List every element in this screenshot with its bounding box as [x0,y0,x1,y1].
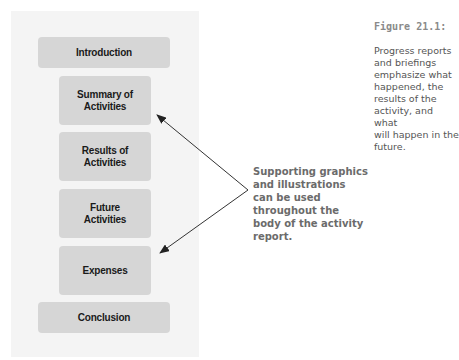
callout-text: Supporting graphics and illustrations ca… [253,165,373,243]
section-label: Future Activities [84,202,126,226]
figure-caption: Figure 21.1: Progress reports and briefi… [374,9,459,153]
section-expenses: Expenses [59,246,151,295]
section-label: Summary of Activities [77,89,133,113]
section-label: Conclusion [78,312,130,324]
section-introduction: Introduction [38,37,170,68]
figure-label: Figure 21.1: [374,21,459,33]
section-label: Introduction [76,47,132,59]
caption-text: Progress reports and briefings emphasize… [374,45,459,152]
section-conclusion: Conclusion [38,302,170,333]
section-future-activities: Future Activities [59,189,151,238]
section-label: Expenses [82,265,127,277]
section-label: Results of Activities [82,145,128,169]
section-summary-of-activities: Summary of Activities [59,76,151,125]
section-results-of-activities: Results of Activities [59,132,151,181]
